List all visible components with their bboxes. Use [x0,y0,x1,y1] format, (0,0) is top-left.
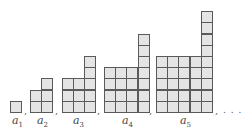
square-cell [201,34,213,46]
square-cell [156,90,168,102]
square-cell [84,90,96,102]
square-cell [138,56,150,68]
square-cell [104,90,116,102]
square-cell [30,101,42,113]
figure-label-a1: a1 [12,115,23,129]
square-cell [138,101,150,113]
square-cell [126,78,138,90]
figure-label-a3: a3 [73,115,84,129]
square-cell [201,22,213,34]
square-cell [156,67,168,79]
square-cell [104,101,116,113]
square-cell [73,101,85,113]
separator-comma: , [24,106,27,116]
square-cell [167,78,179,90]
square-cell [41,101,53,113]
square-cell [190,101,202,113]
square-cell [84,56,96,68]
square-cell [138,45,150,57]
square-cell [156,56,168,68]
square-cell [10,101,22,113]
ellipsis: . . . [223,106,242,115]
square-cell [201,101,213,113]
square-cell [73,78,85,90]
square-cell [190,78,202,90]
square-cell [201,90,213,102]
square-cell [115,101,127,113]
square-cell [115,78,127,90]
square-cell [178,101,190,113]
square-cell [178,67,190,79]
square-cell [138,34,150,46]
separator-comma: , [55,106,58,116]
figure-label-a4: a4 [122,115,133,129]
square-cell [201,45,213,57]
square-cell [201,67,213,79]
square-cell [167,67,179,79]
figure-label-a2: a2 [37,115,48,129]
square-cell [41,78,53,90]
square-cell [138,90,150,102]
square-cell [73,90,85,102]
square-cell [138,78,150,90]
square-cell [178,78,190,90]
square-cell [115,90,127,102]
square-cell [201,78,213,90]
square-cell [201,56,213,68]
square-cell [30,90,42,102]
square-cell [62,78,74,90]
square-cell [201,11,213,23]
square-cell [190,67,202,79]
square-cell [167,101,179,113]
square-cell [84,78,96,90]
square-cell [178,56,190,68]
square-cell [126,67,138,79]
square-cell [62,90,74,102]
square-cell [178,90,190,102]
square-cell [167,90,179,102]
square-cell [190,56,202,68]
square-cell [138,67,150,79]
square-cell [115,67,127,79]
square-cell [126,90,138,102]
square-cell [156,101,168,113]
square-cell [84,67,96,79]
square-cell [156,78,168,90]
separator-comma: , [97,106,100,116]
separator-comma: , [149,106,152,116]
square-cell [104,78,116,90]
square-cell [41,90,53,102]
square-cell [104,67,116,79]
square-cell [62,101,74,113]
figure-label-a5: a5 [180,115,191,129]
square-cell [167,56,179,68]
square-cell [190,90,202,102]
square-cell [84,101,96,113]
square-cell [126,101,138,113]
separator-comma: , [215,106,218,116]
